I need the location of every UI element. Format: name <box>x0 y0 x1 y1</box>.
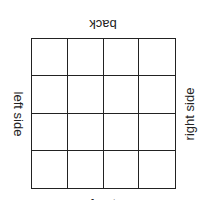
grid-cell <box>32 151 68 188</box>
grid-cell <box>68 151 104 188</box>
grid-cell <box>139 39 175 76</box>
label-left-side: left side <box>11 92 26 137</box>
grid-cell <box>104 151 140 188</box>
grid-cell <box>104 114 140 151</box>
grid-4x4 <box>31 38 176 189</box>
grid-cell <box>68 39 104 76</box>
grid-cell <box>104 39 140 76</box>
grid-cell <box>139 76 175 113</box>
label-front: front <box>90 196 116 201</box>
grid-cell <box>32 76 68 113</box>
grid-cell <box>68 76 104 113</box>
label-right-side: right side <box>182 88 197 141</box>
grid-cell <box>32 114 68 151</box>
grid-cell <box>139 114 175 151</box>
grid-cell <box>68 114 104 151</box>
grid-cell <box>32 39 68 76</box>
label-back: back <box>89 17 116 32</box>
grid-cell <box>104 76 140 113</box>
grid-cell <box>139 151 175 188</box>
